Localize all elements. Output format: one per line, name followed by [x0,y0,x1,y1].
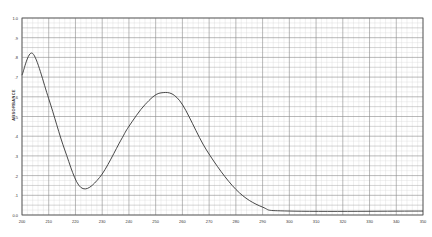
y-tick-label: .7 [0,75,18,80]
y-tick-label: .4 [0,134,18,139]
y-tick-label: 1.0 [0,16,18,21]
x-tick-label: 240 [126,219,133,224]
x-tick-label: 290 [259,219,266,224]
absorbance-curve [22,53,423,211]
x-tick-label: 280 [233,219,240,224]
y-axis-title: ABSORBANCE [11,89,16,121]
x-tick-label: 320 [339,219,346,224]
x-tick-label: 330 [366,219,373,224]
x-tick-label: 260 [179,219,186,224]
x-tick-label: 200 [19,219,26,224]
x-tick-label: 210 [45,219,52,224]
y-tick-label: .1 [0,193,18,198]
y-tick-label: .2 [0,173,18,178]
x-tick-label: 350 [420,219,427,224]
x-tick-label: 340 [393,219,400,224]
x-tick-label: 230 [99,219,106,224]
x-tick-label: 300 [286,219,293,224]
absorbance-chart [0,0,432,237]
y-tick-label: .8 [0,55,18,60]
x-tick-label: 270 [206,219,213,224]
y-tick-label: .9 [0,35,18,40]
y-tick-label: .3 [0,153,18,158]
x-tick-label: 220 [72,219,79,224]
y-tick-label: 0.0 [0,213,18,218]
x-tick-label: 250 [152,219,159,224]
x-tick-label: 310 [313,219,320,224]
